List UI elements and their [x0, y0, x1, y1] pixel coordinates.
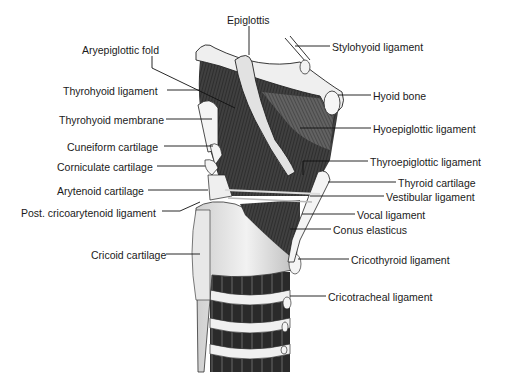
label-thyrohyoid-membrane: Thyrohyoid membrane [59, 114, 164, 126]
label-aryepiglottic-fold: Aryepiglottic fold [82, 44, 159, 56]
larynx-diagram: Aryepiglottic fold Thyrohyoid ligament T… [0, 0, 505, 376]
label-vocal-ligament: Vocal ligament [357, 209, 425, 221]
label-cricoid-cartilage: Cricoid cartilage [91, 249, 166, 261]
label-corniculate-cartilage: Corniculate cartilage [57, 161, 153, 173]
label-thyroepiglottic-ligament: Thyroepiglottic ligament [370, 156, 481, 168]
label-cuneiform-cartilage: Cuneiform cartilage [67, 141, 158, 153]
vocal-ligament [228, 198, 312, 202]
label-cricotracheal-ligament: Cricotracheal ligament [328, 291, 432, 303]
label-epiglottis: Epiglottis [227, 14, 270, 26]
trachea [210, 272, 291, 372]
label-arytenoid-cartilage: Arytenoid cartilage [57, 185, 144, 197]
label-thyroid-cartilage: Thyroid cartilage [398, 177, 476, 189]
label-stylohyoid-ligament: Stylohyoid ligament [332, 41, 423, 53]
label-post-cricoarytenoid-ligament: Post. cricoarytenoid ligament [21, 207, 156, 219]
label-hyoid-bone: Hyoid bone [373, 90, 426, 102]
label-hyoepiglottic-ligament: Hyoepiglottic ligament [373, 123, 476, 135]
label-thyrohyoid-ligament: Thyrohyoid ligament [63, 85, 158, 97]
label-vestibular-ligament: Vestibular ligament [386, 191, 475, 203]
label-cricothyroid-ligament: Cricothyroid ligament [351, 254, 450, 266]
stylohyoid-ligament [285, 36, 310, 62]
label-conus-elasticus: Conus elasticus [333, 224, 407, 236]
